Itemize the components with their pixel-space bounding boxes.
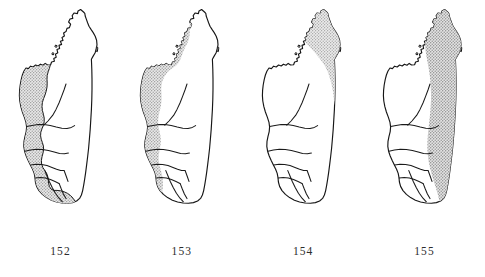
islet-nw-2 [173, 53, 175, 55]
panel-label-155: 155 [414, 244, 435, 258]
islet-nw-1 [176, 45, 178, 47]
islet-nw-2 [416, 53, 418, 55]
islet-ne [217, 47, 219, 52]
islet-nw-2 [52, 53, 54, 55]
distribution-map-figure: 152 [0, 0, 485, 277]
islet-nw-2 [294, 53, 296, 55]
islet-nw-1 [297, 45, 299, 47]
map-graphic-155 [364, 0, 485, 245]
map-graphic-152 [0, 0, 121, 245]
map-graphic-154 [243, 0, 364, 245]
map-panel-152[interactable]: 152 [0, 0, 121, 277]
panel-label-152: 152 [50, 244, 71, 258]
islet-nw-1 [419, 45, 421, 47]
panel-label-154: 154 [293, 244, 314, 258]
map-panel-154[interactable]: 154 [243, 0, 364, 277]
map-graphic-153 [121, 0, 242, 245]
map-panel-155[interactable]: 155 [364, 0, 485, 277]
panel-label-153: 153 [172, 244, 193, 258]
islet-ne [96, 47, 98, 52]
islet-nw-1 [55, 45, 57, 47]
map-panel-153[interactable]: 153 [121, 0, 242, 277]
